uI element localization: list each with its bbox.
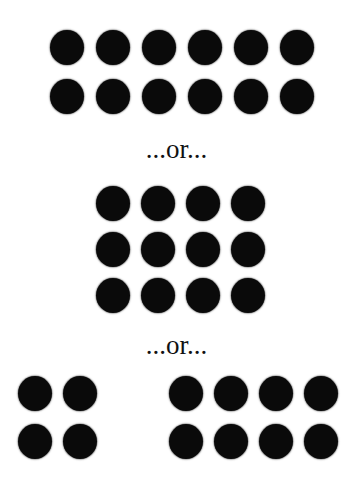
dot [259, 376, 293, 411]
dot [169, 424, 203, 459]
or-separator-1: ...or... [0, 136, 353, 163]
dot [280, 79, 314, 114]
dot [234, 79, 268, 114]
dot [50, 79, 84, 114]
or-separator-2: ...or... [0, 332, 353, 359]
dot [188, 79, 222, 114]
dot [141, 278, 175, 313]
dot [63, 376, 97, 411]
dot [18, 376, 52, 411]
dot [96, 186, 130, 221]
dot [141, 186, 175, 221]
dot [234, 30, 268, 65]
dot [231, 186, 265, 221]
dot [259, 424, 293, 459]
dot [188, 30, 222, 65]
dot [280, 30, 314, 65]
dot [186, 186, 220, 221]
dot [142, 30, 176, 65]
dot [214, 376, 248, 411]
dot [186, 232, 220, 267]
dot [96, 232, 130, 267]
dot [214, 424, 248, 459]
dot [96, 278, 130, 313]
dot [231, 232, 265, 267]
dot [186, 278, 220, 313]
dot [231, 278, 265, 313]
dot [304, 376, 338, 411]
dot [169, 376, 203, 411]
dot [96, 79, 130, 114]
dot [96, 30, 130, 65]
dot [304, 424, 338, 459]
dot [142, 79, 176, 114]
dot [63, 424, 97, 459]
dot [18, 424, 52, 459]
dot [141, 232, 175, 267]
dot [50, 30, 84, 65]
